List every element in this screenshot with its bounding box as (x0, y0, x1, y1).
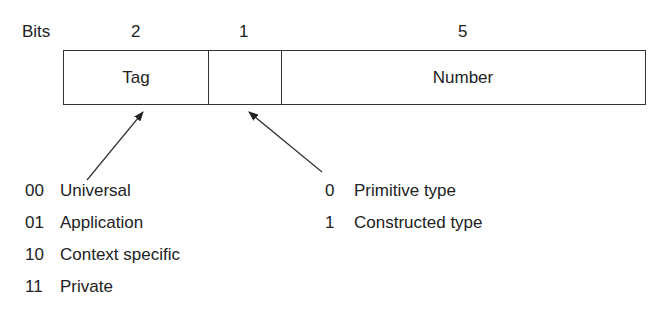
type-legend-item: 0Primitive type (325, 181, 456, 201)
type-label: Constructed type (354, 213, 483, 232)
tag-legend-item: 00Universal (25, 181, 131, 201)
type-code: 0 (325, 181, 354, 201)
tag-code: 11 (25, 277, 60, 297)
tag-legend-item: 11Private (25, 277, 113, 297)
tag-label: Private (60, 277, 113, 296)
tag-code: 01 (25, 213, 60, 233)
type-label: Primitive type (354, 181, 456, 200)
tag-legend-item: 10Context specific (25, 245, 180, 265)
tag-label: Universal (60, 181, 131, 200)
tag-label: Application (60, 213, 143, 232)
arrow-pc (249, 112, 322, 172)
tag-code: 00 (25, 181, 60, 201)
tag-legend-item: 01Application (25, 213, 143, 233)
type-code: 1 (325, 213, 354, 233)
tag-label: Context specific (60, 245, 180, 264)
tag-code: 10 (25, 245, 60, 265)
type-legend-item: 1Constructed type (325, 213, 483, 233)
arrow-tag (87, 112, 143, 180)
